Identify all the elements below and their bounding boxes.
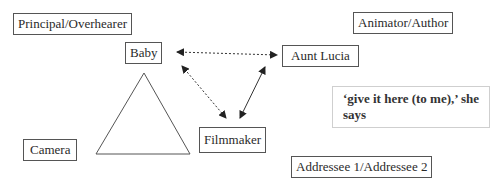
diagram-connectors: [0, 0, 502, 187]
edge-baby-aunt: [177, 52, 277, 55]
edge-baby-filmmaker: [182, 66, 226, 118]
camera-triangle-shape: [96, 73, 190, 154]
edge-aunt-filmmaker: [240, 67, 265, 118]
